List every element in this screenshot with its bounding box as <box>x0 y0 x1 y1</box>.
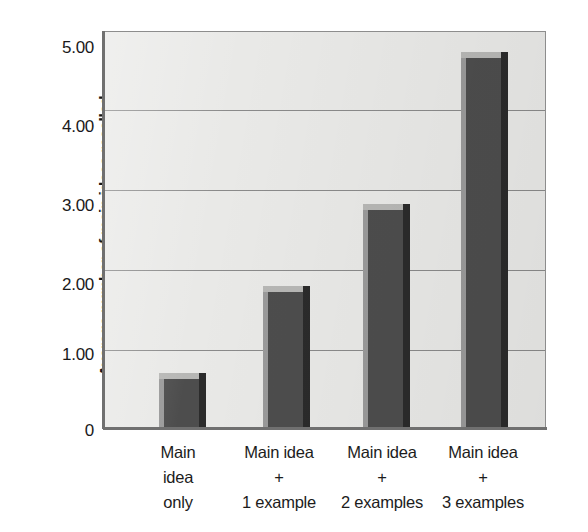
x-axis-line <box>103 427 547 430</box>
bar-front-face <box>268 292 303 427</box>
y-axis-line <box>102 31 105 429</box>
bar-front-face <box>164 379 199 427</box>
bar-front-face <box>466 58 501 427</box>
x-tick-label-3-line2: + <box>421 465 545 490</box>
plot-area <box>103 31 546 428</box>
x-tick-label-0-line3: only <box>123 490 233 515</box>
x-tick-label-3-line1: Main idea <box>421 440 545 465</box>
bar-right-face <box>403 204 410 427</box>
x-axis-tick-labels: Main idea only Main idea + 1 example Mai… <box>103 440 546 530</box>
y-tick-label-2: 2.00 <box>32 275 94 295</box>
bar-chart: Average number of main ideas recalled 5.… <box>0 0 588 532</box>
x-tick-label-0-line1: Main <box>123 440 233 465</box>
y-tick-label-0: 0 <box>32 421 94 441</box>
bar-front-face <box>368 210 403 427</box>
x-tick-label-0-line2: idea <box>123 465 233 490</box>
y-tick-label-3: 3.00 <box>32 196 94 216</box>
y-tick-label-1: 1.00 <box>32 345 94 365</box>
y-axis-tick-labels: 5.00 4.00 3.00 2.00 1.00 0 <box>28 0 94 532</box>
bar-right-face <box>303 286 310 427</box>
bar-right-face <box>501 52 508 427</box>
y-tick-label-5: 5.00 <box>32 38 94 58</box>
x-tick-label-0: Main idea only <box>123 440 233 515</box>
bar-right-face <box>199 373 206 427</box>
y-tick-label-4: 4.00 <box>32 117 94 137</box>
x-tick-label-3: Main idea + 3 examples <box>421 440 545 515</box>
x-tick-label-3-line3: 3 examples <box>421 490 545 515</box>
